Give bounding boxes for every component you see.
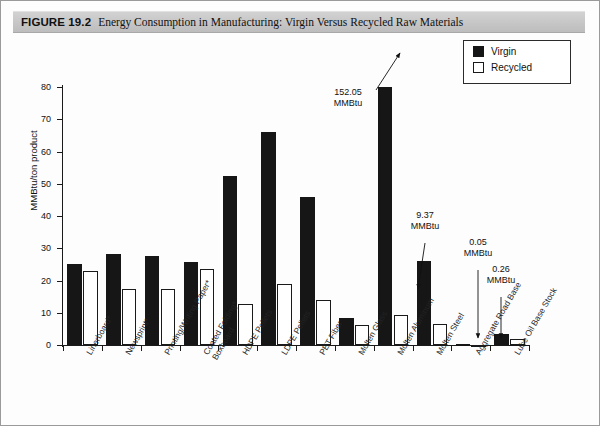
figure-title: Energy Consumption in Manufacturing: Vir…	[98, 16, 463, 28]
y-tick-label-0: 0	[25, 340, 51, 350]
annotation-value-1: 152.05	[334, 87, 362, 97]
x-category-label-10: Aggregate Road Base	[474, 352, 482, 357]
annotation-molten-aluminum-recycled: 9.37 MMBtu	[395, 210, 455, 231]
x-category-label-2: Printing/Writing Paper*	[163, 352, 171, 357]
x-tick-8	[374, 346, 375, 351]
chart-canvas: 01020304050607080 MMBtu/ton product Line…	[1, 35, 600, 426]
x-category-label-4: HDPE Pellets	[241, 352, 249, 357]
figure-number: FIGURE 19.2	[21, 16, 91, 28]
annotation-unit-3: MMBtu	[464, 248, 493, 258]
x-category-label-7: Molten Glass	[357, 352, 365, 357]
x-tick-11	[490, 346, 491, 351]
annotation-value-4: 0.26	[492, 264, 510, 274]
y-axis-line	[62, 85, 63, 347]
x-category-label-0: Linerboard*	[85, 352, 93, 357]
bar-virgin-11	[494, 334, 509, 345]
bar-virgin-8	[378, 87, 393, 345]
legend-item-virgin[interactable]: Virgin	[473, 46, 570, 57]
x-tick-5	[257, 346, 258, 351]
x-tick-7	[335, 346, 336, 351]
x-category-label-5: LDPE Pellets	[280, 352, 288, 357]
x-tick-3	[180, 346, 181, 351]
y-tick-label-10: 10	[25, 308, 51, 318]
y-tick-80	[57, 87, 62, 88]
x-tick-1	[102, 346, 103, 351]
x-tick-0	[63, 346, 64, 351]
x-tick-end	[529, 346, 530, 351]
y-tick-20	[57, 281, 62, 282]
annotation-value-2: 9.37	[416, 210, 434, 220]
bar-virgin-0	[67, 264, 82, 345]
bar-virgin-10	[456, 344, 471, 346]
x-category-label-6: PET Fiber	[318, 352, 326, 357]
legend-swatch-recycled	[473, 62, 484, 73]
y-tick-label-20: 20	[25, 276, 51, 286]
annotation-unit-2: MMBtu	[411, 221, 440, 231]
y-tick-70	[57, 119, 62, 120]
legend-swatch-virgin	[473, 46, 484, 57]
x-category-label-11: Lube Oil Base Stock	[513, 352, 521, 357]
y-tick-30	[57, 248, 62, 249]
annotation-unit-1: MMBtu	[334, 98, 363, 108]
annotation-molten-aluminum-virgin: 152.05 MMBtu	[317, 87, 379, 108]
bar-virgin-1	[106, 254, 121, 345]
x-category-label-1: Newsprint*	[124, 352, 132, 357]
x-category-label-9: Molten Steel	[435, 352, 443, 357]
bar-virgin-2	[145, 256, 160, 345]
y-tick-60	[57, 152, 62, 153]
y-tick-0	[57, 345, 62, 346]
legend-item-recycled[interactable]: Recycled	[473, 62, 570, 73]
y-tick-10	[57, 313, 62, 314]
annotation-aggregate-road-base-recycled: 0.05 MMBtu	[448, 237, 508, 258]
x-category-label-3: Coated Folding*Boxboard	[202, 352, 218, 362]
annotation-unit-4: MMBtu	[487, 275, 516, 285]
x-tick-2	[141, 346, 142, 351]
x-tick-10	[451, 346, 452, 351]
annotation-aggregate-road-base-virgin: 0.26 MMBtu	[471, 264, 531, 285]
y-axis-title: MMBtu/ton product	[28, 91, 39, 251]
figure-page: FIGURE 19.2 Energy Consumption in Manufa…	[0, 0, 600, 426]
x-tick-9	[413, 346, 414, 351]
annotation-value-3: 0.05	[469, 237, 487, 247]
x-category-label-8: Molten Aluminum	[396, 352, 404, 357]
chart-legend: Virgin Recycled	[463, 40, 571, 84]
x-tick-6	[296, 346, 297, 351]
legend-label-recycled: Recycled	[491, 62, 532, 73]
y-tick-40	[57, 216, 62, 217]
y-tick-50	[57, 184, 62, 185]
legend-label-virgin: Virgin	[491, 46, 516, 57]
figure-caption-bar: FIGURE 19.2 Energy Consumption in Manufa…	[13, 11, 585, 33]
